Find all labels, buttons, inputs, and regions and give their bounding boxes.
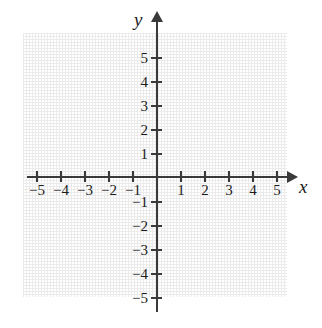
- grid-background: [23, 33, 287, 297]
- grid-line-vertical: [95, 33, 96, 297]
- y-tick-mark: [151, 249, 162, 251]
- y-tick-mark: [151, 297, 162, 299]
- x-tick-label-5: 5: [264, 183, 290, 198]
- y-tick-label-2: 2: [122, 123, 148, 138]
- x-tick-mark: [228, 171, 230, 182]
- y-axis-label: y: [134, 10, 142, 29]
- x-tick-mark: [204, 171, 206, 182]
- y-tick-label-5: 5: [122, 51, 148, 66]
- y-tick-label-1: 1: [122, 147, 148, 162]
- grid-line-vertical: [167, 33, 168, 297]
- grid-line-vertical: [71, 33, 72, 297]
- y-tick-label-4: 4: [122, 75, 148, 90]
- x-tick-mark: [132, 171, 134, 182]
- y-tick-label--3: −3: [122, 243, 148, 258]
- x-tick-mark: [180, 171, 182, 182]
- x-tick-mark: [84, 171, 86, 182]
- x-tick-label--4: −4: [48, 183, 74, 198]
- x-tick-label--2: −2: [96, 183, 122, 198]
- y-tick-mark: [151, 153, 162, 155]
- grid-line-vertical: [119, 33, 120, 297]
- x-axis-label: x: [299, 177, 307, 196]
- grid-line-vertical: [23, 33, 24, 297]
- y-tick-mark: [151, 129, 162, 131]
- coordinate-plane: −5 −4 −3 −2 −1 1 2 3 4 5 5 4 3 2 1 −1 −2…: [0, 0, 322, 328]
- x-axis-arrowhead-icon: [287, 171, 298, 183]
- x-tick-label--3: −3: [72, 183, 98, 198]
- x-tick-label-2: 2: [192, 183, 218, 198]
- y-tick-mark: [151, 57, 162, 59]
- y-tick-mark: [151, 81, 162, 83]
- x-tick-mark: [36, 171, 38, 182]
- x-tick-mark: [276, 171, 278, 182]
- y-tick-label-3: 3: [122, 99, 148, 114]
- x-tick-mark: [60, 171, 62, 182]
- y-tick-mark: [151, 225, 162, 227]
- x-tick-label--5: −5: [24, 183, 50, 198]
- x-tick-label-4: 4: [240, 183, 266, 198]
- y-tick-label--5: −5: [122, 291, 148, 306]
- y-tick-mark: [151, 201, 162, 203]
- x-tick-mark: [252, 171, 254, 182]
- grid-line-vertical: [191, 33, 192, 297]
- y-tick-label--2: −2: [122, 219, 148, 234]
- y-tick-mark: [151, 105, 162, 107]
- grid-line-vertical: [239, 33, 240, 297]
- x-tick-mark: [108, 171, 110, 182]
- grid-line-horizontal: [23, 33, 287, 34]
- y-axis-line: [156, 20, 158, 312]
- grid-line-vertical: [263, 33, 264, 297]
- grid-line-vertical: [47, 33, 48, 297]
- y-tick-label--4: −4: [122, 267, 148, 282]
- y-axis-arrowhead-icon: [151, 11, 163, 22]
- x-tick-label-3: 3: [216, 183, 242, 198]
- y-tick-mark: [151, 273, 162, 275]
- x-tick-label-1: 1: [168, 183, 194, 198]
- grid-line-vertical: [215, 33, 216, 297]
- y-tick-label--1: −1: [122, 195, 148, 210]
